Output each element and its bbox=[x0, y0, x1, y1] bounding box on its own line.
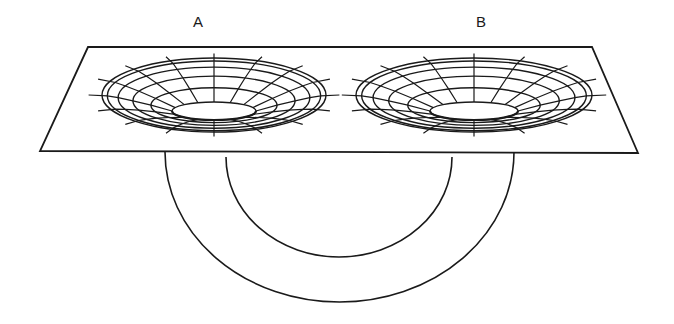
label-mouth-b: B bbox=[476, 13, 486, 30]
label-mouth-a: A bbox=[193, 13, 203, 30]
tube-outer-edge bbox=[165, 152, 514, 302]
wormhole-tube bbox=[165, 152, 514, 302]
wormhole-diagram: A B bbox=[0, 0, 674, 324]
wormhole-drawing bbox=[0, 0, 674, 324]
tube-inner-edge bbox=[226, 157, 452, 257]
